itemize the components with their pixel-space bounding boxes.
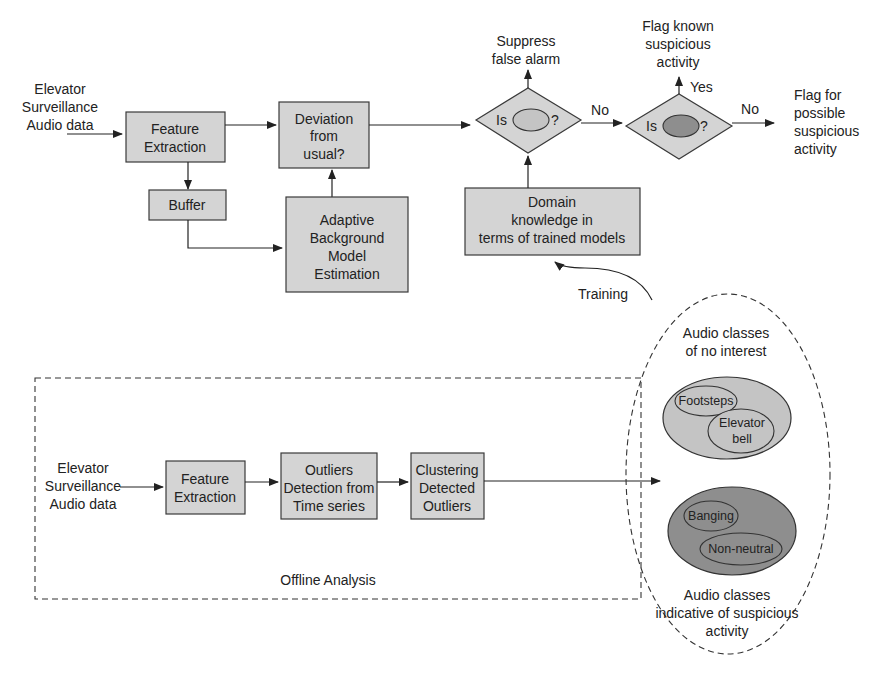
offline-feature-extraction-box: Feature Extraction: [166, 461, 245, 514]
svg-text:terms of trained models: terms of trained models: [479, 230, 625, 246]
elevator-bell-class: Elevator: [719, 416, 765, 430]
training-label: Training: [578, 286, 628, 302]
svg-text:Deviation: Deviation: [295, 111, 353, 127]
svg-text:activity: activity: [794, 141, 837, 157]
banging-class: Banging: [688, 509, 734, 523]
no-interest-classes-group: Footsteps Elevator bell: [663, 377, 791, 459]
svg-text:bell: bell: [732, 432, 751, 446]
svg-text:suspicious: suspicious: [645, 36, 710, 52]
system-diagram: Elevator Surveillance Audio data Feature…: [0, 0, 888, 677]
footsteps-class: Footsteps: [679, 394, 734, 408]
no-label-2: No: [741, 101, 759, 117]
svg-text:Extraction: Extraction: [174, 489, 236, 505]
svg-text:Domain: Domain: [528, 194, 576, 210]
no-label-1: No: [591, 102, 609, 118]
svg-text:activity: activity: [706, 623, 749, 639]
offline-input-label: Elevator Surveillance Audio data: [45, 460, 121, 512]
suspicious-classes-group: Banging Non-neutral: [668, 487, 796, 575]
svg-text:Is: Is: [496, 112, 507, 128]
svg-text:Audio classes: Audio classes: [683, 325, 769, 341]
decision-diamond-suspicious: Is ?: [626, 94, 732, 159]
outliers-detection-box: Outliers Detection from Time series: [281, 453, 377, 519]
svg-text:Time series: Time series: [293, 498, 365, 514]
svg-text:Feature: Feature: [151, 121, 199, 137]
svg-text:indicative of suspicious: indicative of suspicious: [655, 605, 798, 621]
svg-text:Extraction: Extraction: [144, 139, 206, 155]
svg-text:knowledge in: knowledge in: [511, 212, 593, 228]
suspicious-classes-label: Audio classes indicative of suspicious a…: [655, 587, 798, 639]
svg-text:Estimation: Estimation: [314, 266, 379, 282]
svg-text:Background: Background: [310, 230, 385, 246]
svg-text:Outliers: Outliers: [423, 498, 471, 514]
non-neutral-class: Non-neutral: [708, 542, 773, 556]
no-interest-classes-label: Audio classes of no interest: [683, 325, 769, 359]
svg-text:?: ?: [700, 118, 708, 134]
svg-text:possible: possible: [794, 105, 846, 121]
flag-possible-label: Flag for possible suspicious activity: [794, 87, 859, 157]
svg-text:Adaptive: Adaptive: [320, 212, 375, 228]
svg-text:Clustering: Clustering: [415, 462, 478, 478]
svg-text:Audio data: Audio data: [50, 496, 117, 512]
svg-text:Detection from: Detection from: [283, 480, 374, 496]
clustering-box: Clustering Detected Outliers: [411, 453, 484, 519]
svg-text:false alarm: false alarm: [492, 51, 560, 67]
offline-analysis-title: Offline Analysis: [280, 572, 375, 588]
svg-text:Feature: Feature: [181, 471, 229, 487]
feature-extraction-box: Feature Extraction: [126, 112, 225, 162]
flag-known-label: Flag known suspicious activity: [642, 18, 714, 70]
svg-text:of no interest: of no interest: [686, 343, 767, 359]
svg-text:Detected: Detected: [419, 480, 475, 496]
svg-text:Is: Is: [646, 118, 657, 134]
svg-text:Surveillance: Surveillance: [45, 478, 121, 494]
svg-text:Audio data: Audio data: [27, 117, 94, 133]
arrow-buffer-to-adaptive: [188, 220, 282, 248]
svg-text:activity: activity: [657, 54, 700, 70]
adaptive-model-box: Adaptive Background Model Estimation: [286, 197, 408, 292]
svg-text:Elevator: Elevator: [34, 81, 86, 97]
suspicious-class-icon: [663, 115, 699, 137]
suppress-false-alarm-label: Suppress false alarm: [492, 33, 560, 67]
svg-text:Buffer: Buffer: [168, 197, 205, 213]
yes-label: Yes: [690, 79, 713, 95]
svg-text:Model: Model: [328, 248, 366, 264]
svg-text:Flag known: Flag known: [642, 18, 714, 34]
buffer-box: Buffer: [149, 190, 226, 220]
svg-text:Elevator: Elevator: [57, 460, 109, 476]
online-input-label: Elevator Surveillance Audio data: [22, 81, 98, 133]
decision-diamond-no-interest: Is ?: [476, 88, 581, 153]
svg-text:usual?: usual?: [303, 146, 344, 162]
domain-knowledge-box: Domain knowledge in terms of trained mod…: [465, 188, 640, 255]
svg-text:from: from: [310, 128, 338, 144]
svg-text:suspicious: suspicious: [794, 123, 859, 139]
deviation-box: Deviation from usual?: [279, 102, 369, 168]
svg-text:Outliers: Outliers: [305, 462, 353, 478]
no-interest-class-icon: [513, 109, 549, 131]
svg-text:Audio classes: Audio classes: [684, 587, 770, 603]
svg-text:Surveillance: Surveillance: [22, 99, 98, 115]
svg-text:Flag for: Flag for: [794, 87, 842, 103]
svg-text:?: ?: [551, 112, 559, 128]
svg-text:Suppress: Suppress: [496, 33, 555, 49]
